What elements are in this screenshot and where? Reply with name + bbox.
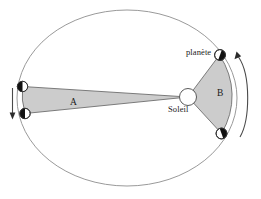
slow-motion-arrow (10, 88, 16, 120)
planet-label: planète (186, 48, 211, 57)
planet-marker-perihelion-upper (213, 48, 227, 62)
planet-marker-aphelion-lower (20, 108, 30, 118)
diagram-canvas (0, 0, 261, 199)
planet-marker-aphelion-upper (17, 81, 27, 91)
area-a-label: A (70, 98, 77, 108)
sun-label: Soleil (168, 105, 188, 114)
area-b-label: B (217, 89, 223, 99)
kepler-second-law-figure: planète Soleil A B (0, 0, 261, 199)
swept-area-a (22, 87, 188, 114)
sun-body (180, 89, 197, 106)
